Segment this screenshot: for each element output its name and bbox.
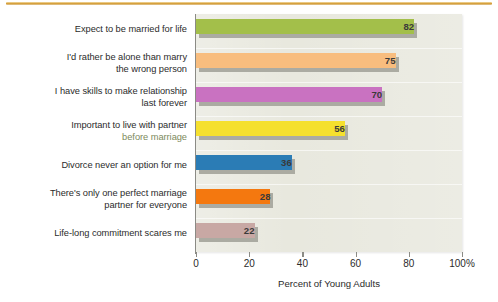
x-axis-tick (302, 252, 303, 257)
bar-row: 36 (196, 155, 462, 181)
plot-area: 82757056362822 (196, 14, 462, 252)
category-label-line: last forever (0, 98, 187, 110)
category-label-line: Important to live with partner (0, 120, 187, 132)
bar-row: 22 (196, 223, 462, 249)
x-axis-title: Percent of Young Adults (196, 278, 462, 289)
category-label-line: before marriage (0, 132, 187, 144)
category-label: I'd rather be alone than marrythe wrong … (0, 52, 187, 75)
bar-row: 75 (196, 53, 462, 79)
bar-value-label: 22 (196, 223, 259, 238)
x-axis-tick (356, 252, 357, 257)
x-axis-tick-label: 20 (244, 258, 255, 269)
bar-value-label: 70 (196, 87, 386, 102)
grid-line (196, 82, 462, 83)
bar-chart-figure: Expect to be married for lifeI'd rather … (0, 0, 498, 302)
category-label-line: Expect to be married for life (0, 24, 187, 36)
bar-row: 56 (196, 121, 462, 147)
bar-value-label: 75 (196, 53, 400, 68)
category-label: Life-long commitment scares me (0, 228, 187, 240)
grid-line (196, 116, 462, 117)
bar-row: 82 (196, 19, 462, 45)
category-label: Expect to be married for life (0, 24, 187, 36)
x-axis-tick-label: 60 (350, 258, 361, 269)
category-label: There's only one perfect marriagepartner… (0, 188, 187, 211)
category-label-column: Expect to be married for lifeI'd rather … (0, 14, 192, 252)
bar-row: 28 (196, 189, 462, 215)
grid-line (196, 184, 462, 185)
x-axis-tick-label: 80 (403, 258, 414, 269)
bar-value-label: 56 (196, 121, 349, 136)
category-label-line: I have skills to make relationship (0, 86, 187, 98)
grid-line (196, 48, 462, 49)
category-label: Divorce never an option for me (0, 160, 187, 172)
bar-row: 70 (196, 87, 462, 113)
category-label-line: partner for everyone (0, 200, 187, 212)
bar-value-label: 28 (196, 189, 274, 204)
bar-value-label: 36 (196, 155, 296, 170)
x-axis-tick-label: 40 (297, 258, 308, 269)
category-label: I have skills to make relationshiplast f… (0, 86, 187, 109)
x-axis-tick (196, 252, 197, 257)
category-label-line: the wrong person (0, 64, 187, 76)
x-axis-tick-label: 100% (449, 258, 475, 269)
x-axis-tick (409, 252, 410, 257)
bar-value-label: 82 (196, 19, 418, 34)
y-axis-spine (195, 14, 196, 254)
category-label-line: Life-long commitment scares me (0, 228, 187, 240)
x-axis-tick-label: 0 (193, 258, 199, 269)
decorative-top-rule (6, 2, 492, 5)
category-label-line: I'd rather be alone than marry (0, 52, 187, 64)
category-label-line: Divorce never an option for me (0, 160, 187, 172)
x-axis-tick (249, 252, 250, 257)
category-label-line: There's only one perfect marriage (0, 188, 187, 200)
x-axis-tick (462, 252, 463, 257)
category-label: Important to live with partnerbefore mar… (0, 120, 187, 143)
grid-line (196, 218, 462, 219)
grid-line (196, 150, 462, 151)
